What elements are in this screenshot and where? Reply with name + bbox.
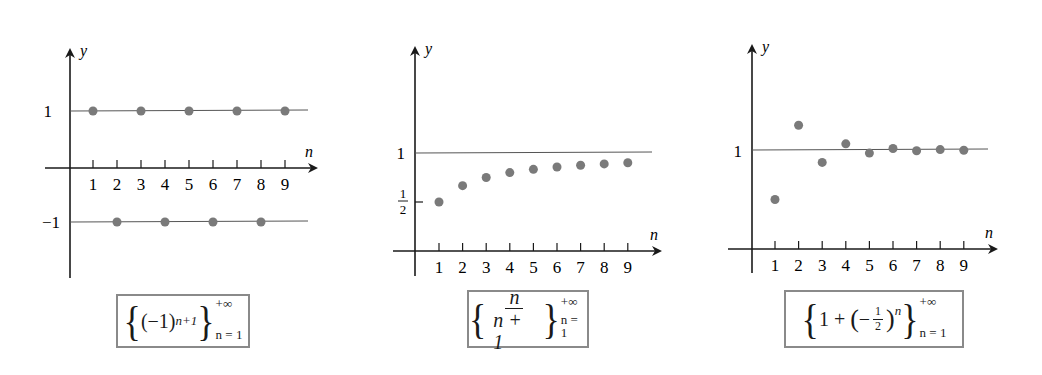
left-paren: (: [850, 304, 859, 334]
x-tick-label: 5: [865, 256, 874, 275]
data-point: [912, 146, 921, 155]
formula-lead: 1 +: [819, 308, 850, 331]
fraction-denominator: n + 1: [489, 309, 539, 353]
data-point: [865, 149, 874, 158]
upper-limit: +∞: [920, 295, 947, 308]
y-axis-label: y: [760, 38, 770, 56]
fraction-denominator: 2: [873, 320, 883, 333]
x-tick-label: 5: [185, 175, 194, 194]
data-point: [794, 121, 803, 130]
data-point: [936, 145, 945, 154]
data-point: [89, 107, 98, 116]
y-tick-half-num: 1: [400, 186, 407, 201]
right-brace: }: [901, 298, 918, 339]
chart-one-plus-neg-half-pow-n: 123456789 y n 1: [728, 38, 996, 275]
chart-alternating: 123456789 y n 1 −1: [42, 42, 316, 278]
x-tick-label: 7: [233, 175, 242, 194]
lower-limit: n = 1: [216, 328, 243, 341]
data-point: [161, 218, 170, 227]
data-point: [959, 146, 968, 155]
left-brace: {: [469, 298, 486, 339]
x-tick-label: 8: [257, 175, 266, 194]
data-point: [505, 168, 514, 177]
x-tick-label: 7: [912, 256, 921, 275]
formula-box-2: { n n + 1 } +∞ n = 1: [467, 290, 589, 348]
x-tick-label: 2: [794, 256, 803, 275]
data-point: [257, 218, 266, 227]
formula-limits: +∞ n = 1: [216, 301, 243, 341]
x-tick-label: 1: [435, 258, 444, 277]
formula-limits: +∞ n = 1: [561, 299, 587, 339]
x-ticks: 123456789: [771, 241, 968, 275]
right-brace: }: [197, 300, 214, 341]
x-tick-label: 3: [818, 256, 827, 275]
x-axis-label: n: [305, 143, 313, 160]
data-point: [185, 107, 194, 116]
x-tick-label: 8: [600, 258, 609, 277]
lower-limit: n = 1: [920, 326, 947, 339]
plots-canvas: 123456789 y n 1 −1 123456789 y n 1 1 2 1…: [0, 0, 1042, 290]
left-brace: {: [124, 300, 141, 341]
x-tick-label: 5: [529, 258, 538, 277]
data-point: [529, 165, 538, 174]
x-tick-label: 9: [960, 256, 969, 275]
reference-line-y1: [415, 152, 652, 153]
data-point: [553, 163, 562, 172]
data-point: [600, 159, 609, 168]
x-tick-label: 6: [209, 175, 218, 194]
y-axis-label: y: [423, 40, 433, 58]
y-tick-1: 1: [44, 102, 53, 121]
y-tick-1: 1: [734, 142, 743, 161]
formula-exponent: n+1: [175, 313, 197, 328]
x-tick-label: 6: [889, 256, 898, 275]
data-point: [841, 139, 850, 148]
data-point: [482, 173, 491, 182]
x-tick-label: 8: [936, 256, 945, 275]
x-tick-label: 3: [137, 175, 146, 194]
fraction-numerator: n: [505, 286, 523, 309]
formula-box-1: { (−1)n+1 } +∞ n = 1: [116, 294, 250, 348]
x-tick-label: 6: [553, 258, 562, 277]
data-point: [233, 107, 242, 116]
chart-n-over-n-plus-1: 123456789 y n 1 1 2: [393, 40, 660, 277]
x-ticks: 123456789: [435, 243, 632, 277]
formula-box-3: { 1 + ( − 1 2 )n } +∞ n = 1: [784, 290, 964, 348]
left-brace: {: [802, 298, 819, 339]
x-tick-label: 9: [281, 175, 290, 194]
formula-base: (−1): [141, 310, 176, 333]
data-point: [281, 107, 290, 116]
y-tick-neg1: −1: [42, 213, 60, 232]
data-point: [113, 218, 122, 227]
fraction-numerator: 1: [873, 305, 883, 319]
x-ticks: 123456789: [89, 160, 290, 194]
data-point: [576, 161, 585, 170]
formula-fraction: n n + 1: [489, 286, 539, 353]
x-tick-label: 9: [624, 258, 633, 277]
data-point: [458, 181, 467, 190]
y-tick-half-den: 2: [400, 202, 407, 217]
data-point: [209, 218, 218, 227]
x-tick-label: 4: [506, 258, 515, 277]
y-tick-1: 1: [397, 144, 406, 163]
right-brace: }: [543, 298, 560, 339]
x-tick-label: 3: [482, 258, 491, 277]
lower-limit: n = 1: [561, 313, 587, 339]
x-tick-label: 4: [161, 175, 170, 194]
formula-sign: −: [859, 308, 870, 331]
data-points: [435, 158, 633, 206]
y-axis-label: y: [78, 42, 88, 60]
data-point: [771, 195, 780, 204]
data-point: [889, 144, 898, 153]
x-axis-label: n: [650, 226, 658, 243]
data-points: [771, 121, 969, 204]
right-paren: ): [886, 304, 895, 334]
x-axis-label: n: [985, 224, 993, 241]
x-tick-label: 4: [842, 256, 851, 275]
data-point: [623, 158, 632, 167]
reference-line-yneg1: [70, 221, 308, 222]
x-tick-label: 2: [113, 175, 122, 194]
upper-limit: +∞: [561, 295, 587, 308]
x-tick-label: 1: [771, 256, 780, 275]
data-point: [818, 158, 827, 167]
x-tick-label: 1: [89, 175, 98, 194]
